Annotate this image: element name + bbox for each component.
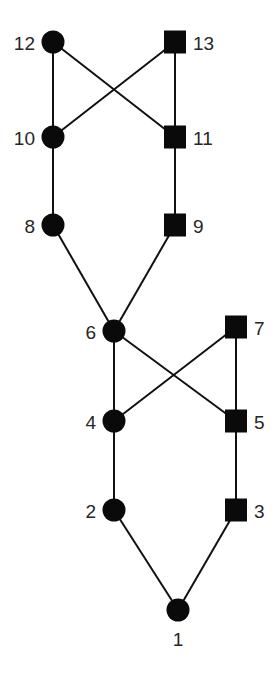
node-label-6: 6: [85, 322, 96, 343]
node-label-9: 9: [193, 216, 204, 237]
nodes-layer: [42, 31, 248, 622]
node-label-11: 11: [193, 128, 213, 149]
edge-9-6: [114, 225, 175, 331]
node-square-9: [164, 214, 186, 237]
node-label-3: 3: [254, 501, 265, 522]
node-label-5: 5: [254, 412, 265, 433]
node-square-3: [225, 499, 247, 522]
edge-3-1: [178, 510, 236, 610]
node-label-8: 8: [24, 216, 35, 237]
edge-8-6: [53, 225, 114, 331]
node-circle-12: [42, 31, 65, 54]
node-circle-1: [167, 599, 190, 622]
node-label-2: 2: [85, 501, 96, 522]
node-square-13: [164, 31, 186, 54]
node-square-7: [225, 316, 247, 339]
node-circle-4: [103, 410, 126, 433]
node-label-10: 10: [14, 128, 35, 149]
graph-diagram: 12345678910111213: [0, 0, 277, 674]
node-circle-2: [103, 499, 126, 522]
node-square-5: [225, 410, 247, 433]
node-label-12: 12: [14, 33, 35, 54]
node-circle-10: [42, 126, 65, 149]
labels-layer: 12345678910111213: [14, 33, 265, 650]
node-label-4: 4: [85, 412, 96, 433]
node-square-11: [164, 126, 186, 149]
node-label-7: 7: [254, 318, 265, 339]
edge-2-1: [114, 510, 178, 610]
node-circle-8: [42, 214, 65, 237]
node-label-1: 1: [173, 629, 184, 650]
node-circle-6: [103, 320, 126, 343]
node-label-13: 13: [193, 33, 214, 54]
